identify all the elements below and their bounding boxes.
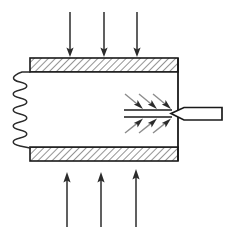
- schematic-canvas: [0, 0, 234, 237]
- schematic-diagram: [0, 0, 234, 237]
- heat-arrow-bottom-1: [63, 172, 70, 227]
- heat-arrow-bottom-2: [97, 172, 104, 227]
- incoming-heat-flux-top: [66, 12, 140, 57]
- top-wall: [30, 58, 178, 72]
- incoming-heat-flux-bottom: [63, 169, 139, 227]
- probe-outline: [171, 108, 222, 121]
- probe-nozzle: [171, 108, 222, 121]
- heat-arrow-top-2: [100, 12, 107, 57]
- heat-arrow-bottom-3: [132, 169, 139, 227]
- coil-spring-left-boundary: [13, 72, 30, 148]
- bottom-wall: [30, 147, 178, 161]
- heat-arrow-top-1: [66, 12, 73, 57]
- heat-arrow-top-3: [133, 12, 140, 57]
